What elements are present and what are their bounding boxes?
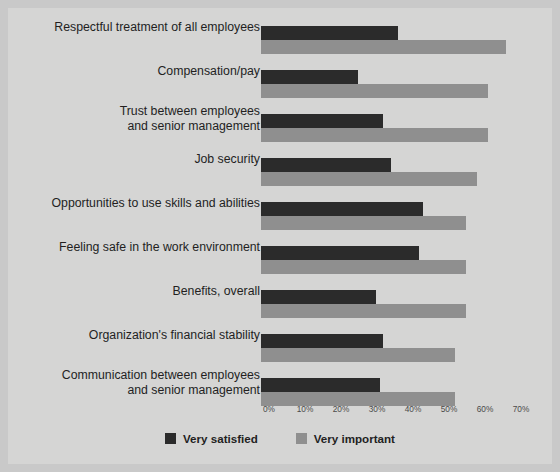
category-label: Compensation/pay — [20, 64, 260, 79]
category-label-line: and senior management — [20, 383, 260, 398]
bar-group — [261, 70, 549, 102]
x-axis-tick: 40% — [395, 404, 431, 414]
chart-row: Job security — [8, 152, 552, 196]
bar-group — [261, 246, 549, 278]
x-axis-tick: 50% — [431, 404, 467, 414]
chart-legend: Very satisfiedVery important — [8, 432, 552, 445]
chart-row: Compensation/pay — [8, 64, 552, 108]
x-axis-tick: 0% — [251, 404, 287, 414]
chart-panel: Respectful treatment of all employeesCom… — [8, 8, 552, 464]
bar-very-satisfied — [261, 114, 383, 128]
bar-very-important — [261, 348, 455, 362]
category-label-line: Feeling safe in the work environment — [20, 240, 260, 255]
category-label-line: Job security — [20, 152, 260, 167]
category-label-line: Communication between employees — [20, 368, 260, 383]
chart-row: Trust between employeesand senior manage… — [8, 108, 552, 152]
bar-very-important — [261, 128, 488, 142]
bar-very-important — [261, 304, 466, 318]
x-axis-tick: 60% — [467, 404, 503, 414]
x-axis-tick: 70% — [503, 404, 539, 414]
category-label-line: Benefits, overall — [20, 284, 260, 299]
legend-item[interactable]: Very important — [296, 432, 395, 445]
bar-very-satisfied — [261, 70, 358, 84]
chart-row: Organization's financial stability — [8, 328, 552, 372]
plot-area: Respectful treatment of all employeesCom… — [8, 8, 552, 400]
bar-very-satisfied — [261, 202, 423, 216]
x-axis: 0%10%20%30%40%50%60%70% — [261, 404, 551, 420]
bar-very-important — [261, 172, 477, 186]
bar-group — [261, 202, 549, 234]
bar-very-satisfied — [261, 26, 398, 40]
x-axis-tick: 30% — [359, 404, 395, 414]
chart-row: Respectful treatment of all employees — [8, 20, 552, 64]
category-label: Respectful treatment of all employees — [20, 20, 260, 35]
bar-very-satisfied — [261, 378, 380, 392]
bar-very-important — [261, 260, 466, 274]
chart-row: Opportunities to use skills and abilitie… — [8, 196, 552, 240]
legend-label: Very important — [314, 432, 395, 445]
category-label-line: Organization's financial stability — [20, 328, 260, 343]
category-label: Opportunities to use skills and abilitie… — [20, 196, 260, 211]
legend-swatch-icon — [296, 433, 307, 444]
bar-very-important — [261, 216, 466, 230]
category-label: Organization's financial stability — [20, 328, 260, 343]
bar-very-important — [261, 84, 488, 98]
bar-group — [261, 158, 549, 190]
legend-swatch-icon — [165, 433, 176, 444]
category-label: Job security — [20, 152, 260, 167]
category-label: Communication between employeesand senio… — [20, 368, 260, 398]
bar-group — [261, 290, 549, 322]
category-label: Trust between employeesand senior manage… — [20, 104, 260, 134]
category-label-line: Compensation/pay — [20, 64, 260, 79]
bar-group — [261, 114, 549, 146]
category-label-line: Opportunities to use skills and abilitie… — [20, 196, 260, 211]
category-label-line: Respectful treatment of all employees — [20, 20, 260, 35]
bar-very-satisfied — [261, 158, 391, 172]
chart-row: Benefits, overall — [8, 284, 552, 328]
bar-very-satisfied — [261, 290, 376, 304]
category-label: Benefits, overall — [20, 284, 260, 299]
bar-very-satisfied — [261, 334, 383, 348]
legend-item[interactable]: Very satisfied — [165, 432, 258, 445]
bar-very-satisfied — [261, 246, 419, 260]
x-axis-tick: 20% — [323, 404, 359, 414]
category-label: Feeling safe in the work environment — [20, 240, 260, 255]
bar-very-important — [261, 40, 506, 54]
bar-group — [261, 334, 549, 366]
x-axis-tick: 10% — [287, 404, 323, 414]
category-label-line: and senior management — [20, 119, 260, 134]
category-label-line: Trust between employees — [20, 104, 260, 119]
chart-row: Feeling safe in the work environment — [8, 240, 552, 284]
bar-group — [261, 26, 549, 58]
legend-label: Very satisfied — [183, 432, 258, 445]
